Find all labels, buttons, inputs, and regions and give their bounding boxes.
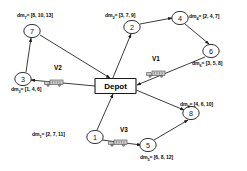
node-label-6: 6 <box>209 47 213 56</box>
demand-value: [2, 7, 11] <box>46 131 65 137</box>
demand-label-node-8: dm8= [4, 6, 10] <box>180 101 213 109</box>
truck-icon-V1 <box>146 64 166 72</box>
vrp-diagram-canvas: Depot 12345678 dm7= [8, 10, 13]dm2= [3, … <box>0 0 247 171</box>
depot-label: Depot <box>104 82 127 91</box>
node-label-7: 7 <box>30 27 34 36</box>
node-label-3: 3 <box>21 75 25 84</box>
edge-3-to-7 <box>26 38 31 72</box>
edge-2-to-4 <box>140 18 172 24</box>
demand-value: [3, 7, 9] <box>119 12 136 18</box>
node-label-8: 8 <box>189 109 193 118</box>
customer-node-5[interactable]: 5 <box>140 138 156 151</box>
vehicle-label-V3: V3 <box>120 126 128 133</box>
truck-icon-V2 <box>44 73 64 81</box>
vehicle-label-V1: V1 <box>152 55 160 62</box>
edge-depot-to-8 <box>136 90 184 110</box>
demand-value: [6, 8, 12] <box>154 154 173 160</box>
customer-node-3[interactable]: 3 <box>15 72 31 85</box>
edge-7-to-depot <box>40 35 110 78</box>
truck-icon-V3 <box>108 133 128 141</box>
edge-1-to-depot <box>97 94 113 130</box>
node-label-1: 1 <box>93 133 97 142</box>
demand-value: [3, 5, 8] <box>206 60 223 66</box>
demand-label-node-5: dm5= [6, 8, 12] <box>140 154 173 162</box>
demand-label-node-1: dm1= [2, 7, 11] <box>32 131 65 139</box>
demand-label-node-4: dm4= [2, 4, 7] <box>189 13 219 21</box>
depot-node[interactable]: Depot <box>95 79 136 94</box>
node-label-4: 4 <box>178 14 182 23</box>
demand-value: [2, 4, 7] <box>203 13 220 19</box>
edge-depot-to-2 <box>112 34 131 80</box>
demand-label-node-2: dm2= [3, 7, 9] <box>105 12 135 20</box>
vehicle-label-V2: V2 <box>54 64 62 71</box>
demand-label-node-3: dm3= [1, 4, 6] <box>11 86 41 94</box>
demand-label-node-6: dm6= [3, 5, 8] <box>192 60 222 68</box>
customer-node-7[interactable]: 7 <box>24 24 40 37</box>
customer-node-1[interactable]: 1 <box>87 130 103 143</box>
demand-value: [4, 6, 10] <box>194 101 213 107</box>
edge-4-to-6 <box>185 24 209 44</box>
customer-node-2[interactable]: 2 <box>124 20 140 33</box>
demand-value: [8, 10, 13] <box>31 12 53 18</box>
demand-value: [1, 4, 6] <box>25 86 42 92</box>
node-label-5: 5 <box>146 141 150 150</box>
node-label-2: 2 <box>130 23 134 32</box>
demand-label-node-7: dm7= [8, 10, 13] <box>17 12 53 20</box>
customer-node-4[interactable]: 4 <box>172 11 188 24</box>
edge-5-to-8 <box>154 120 188 140</box>
customer-node-6[interactable]: 6 <box>203 44 219 57</box>
